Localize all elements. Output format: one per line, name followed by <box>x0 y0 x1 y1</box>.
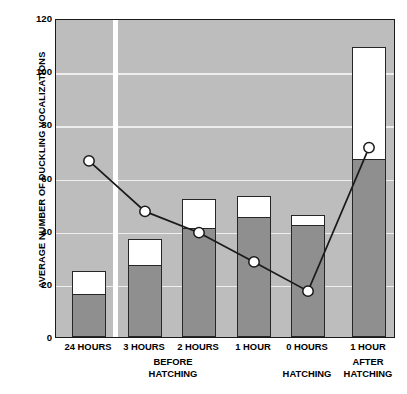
bar <box>182 199 216 337</box>
y-tick-label: 60 <box>26 174 52 184</box>
group-label: BEFOREHATCHING <box>128 356 218 379</box>
group-label: AFTERHATCHING <box>323 356 407 379</box>
bar <box>128 239 162 337</box>
y-tick-label: 120 <box>26 14 52 24</box>
bar-segment-shaded <box>237 217 271 337</box>
group-label-line2: HATCHING <box>128 368 218 380</box>
axis-break-gap <box>113 20 118 337</box>
gridline <box>56 126 394 128</box>
bar-segment-shaded <box>352 159 386 337</box>
y-tick-label: 40 <box>26 227 52 237</box>
bar-segment-shaded <box>291 225 325 337</box>
x-axis-tick-labels: 24 HOURS3 HOURS2 HOURS1 HOUR0 HOURS1 HOU… <box>0 341 407 357</box>
group-label-line1: BEFORE <box>128 356 218 368</box>
y-tick-label: 20 <box>26 280 52 290</box>
y-tick-label: 80 <box>26 120 52 130</box>
bar <box>291 215 325 337</box>
y-axis-tick-labels: 020406080100120 <box>24 0 52 394</box>
x-axis-group-labels: BEFOREHATCHINGHATCHINGAFTERHATCHING <box>0 356 407 394</box>
line-marker <box>140 206 150 216</box>
x-tick-label: 1 HOUR <box>332 341 404 352</box>
plot-area <box>55 19 395 338</box>
gridline <box>56 180 394 182</box>
group-label-line2: HATCHING <box>323 368 407 380</box>
bar-segment-shaded <box>128 265 162 337</box>
line-marker <box>84 156 94 166</box>
y-tick-label: 100 <box>26 67 52 77</box>
group-label-line1: AFTER <box>323 356 407 368</box>
chart-figure: AVERAGE NUMBER OF DUCKLING VOCALIZATIONS… <box>0 0 407 394</box>
bar <box>72 271 106 337</box>
bar <box>237 196 271 337</box>
bar-segment-shaded <box>182 228 216 337</box>
gridline <box>56 286 394 288</box>
bar-segment-shaded <box>72 294 106 337</box>
gridline <box>56 233 394 235</box>
bar <box>352 47 386 337</box>
gridline <box>56 73 394 75</box>
